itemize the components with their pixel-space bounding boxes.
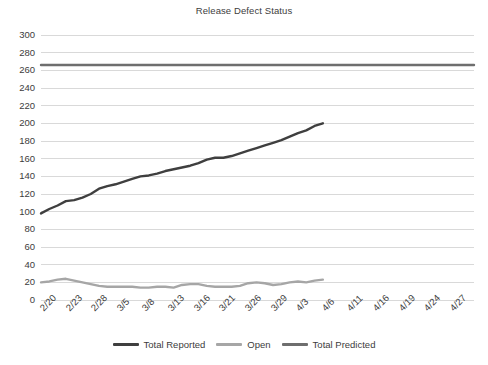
legend-item-label: Open	[247, 339, 270, 350]
legend-color-swatch	[282, 343, 308, 346]
legend-item[interactable]: Total Reported	[113, 339, 206, 350]
x-axis-tick-label: 3/8	[140, 297, 156, 313]
x-axis-tick-label: 2/23	[64, 293, 84, 313]
x-axis-tick-label: 4/3	[294, 297, 310, 313]
x-axis-tick-label: 3/21	[217, 293, 237, 313]
x-axis-tick-label: 4/19	[397, 293, 417, 313]
chart-legend: Total ReportedOpenTotal Predicted	[0, 339, 488, 350]
x-axis-tick-label: 4/24	[422, 293, 442, 313]
x-axis-tick-labels: 2/202/232/283/53/83/133/163/213/263/294/…	[0, 0, 488, 365]
x-axis-tick-label: 3/29	[269, 293, 289, 313]
legend-color-swatch	[216, 343, 242, 346]
x-axis-tick-label: 4/6	[320, 297, 336, 313]
x-axis-tick-label: 3/5	[115, 297, 131, 313]
x-axis-tick-label: 4/16	[371, 293, 391, 313]
x-axis-tick-label: 4/11	[345, 293, 365, 313]
legend-item[interactable]: Open	[216, 339, 270, 350]
x-axis-tick-label: 2/28	[89, 293, 109, 313]
chart-container: Release Defect Status 300280260240220200…	[0, 0, 488, 365]
legend-color-swatch	[113, 343, 139, 346]
x-axis-tick-label: 4/27	[448, 293, 468, 313]
legend-item-label: Total Reported	[144, 339, 206, 350]
legend-item-label: Total Predicted	[313, 339, 376, 350]
x-axis-tick-label: 3/26	[243, 293, 263, 313]
x-axis-tick-label: 2/20	[38, 293, 58, 313]
x-axis-tick-label: 3/16	[192, 293, 212, 313]
legend-item[interactable]: Total Predicted	[282, 339, 376, 350]
x-axis-tick-label: 3/13	[166, 293, 186, 313]
